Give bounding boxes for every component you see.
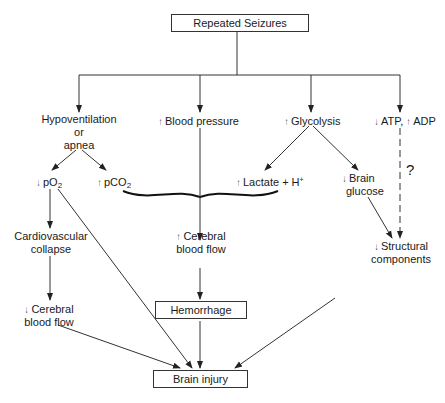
down-arrow-icon: ↓: [375, 115, 379, 128]
glycolysis-label: Glycolysis: [291, 115, 341, 127]
arrow-to-lactate: [265, 126, 309, 170]
brain-glucose-node: ↓Brain glucose: [342, 172, 384, 198]
pco2-label: pCO: [104, 176, 127, 188]
cerebral-down-line1: Cerebral: [31, 303, 73, 315]
lactate-label: Lactate + H: [243, 176, 300, 188]
brain-glucose-line2: glucose: [342, 185, 384, 198]
arrow-to-pco2: [82, 150, 106, 170]
hemorrhage-label: Hemorrhage: [170, 304, 231, 316]
lactate-superscript: +: [300, 176, 304, 183]
question-mark: ?: [406, 161, 414, 178]
cardiovascular-node: Cardiovascular collapse: [10, 230, 92, 256]
hypoventilation-line1: Hypoventilation: [34, 113, 124, 126]
brain-injury-box: Brain injury: [153, 370, 248, 388]
down-arrow-icon: ↓: [25, 303, 29, 316]
cardiovascular-line1: Cardiovascular: [10, 230, 92, 243]
up-arrow-icon: ↑: [159, 115, 163, 128]
arrow-cerebral-down-to-injury: [58, 325, 180, 368]
cerebral-up-line1: Cerebral: [183, 230, 225, 242]
cerebral-blood-flow-up-node: ↑Cerebral blood flow: [170, 230, 232, 256]
blood-pressure-label: Blood pressure: [165, 115, 239, 127]
down-arrow-icon: ↓: [343, 172, 347, 185]
up-arrow-icon: ↑: [285, 115, 289, 128]
structural-components-node: ↓Structural components: [362, 240, 440, 266]
structural-line2: components: [362, 253, 440, 266]
hypoventilation-line3: apnea: [34, 139, 124, 152]
pco2-node: ↑pCO2: [97, 176, 131, 189]
pco2-subscript: 2: [127, 181, 131, 190]
up-arrow-icon: ↑: [98, 176, 102, 189]
arrow-to-po2: [52, 150, 76, 170]
po2-node: ↓pO2: [36, 176, 62, 189]
cerebral-blood-flow-down-node: ↓Cerebral blood flow: [16, 303, 82, 329]
po2-label: pO: [43, 176, 58, 188]
connector-layer: [0, 0, 445, 403]
structural-line1: Structural: [381, 240, 428, 252]
arrow-structural-to-injury: [235, 298, 335, 368]
cerebral-down-line2: blood flow: [16, 316, 82, 329]
cerebral-up-line2: blood flow: [170, 243, 232, 256]
up-arrow-icon: ↑: [237, 176, 241, 189]
blood-pressure-node: ↑Blood pressure: [158, 115, 239, 128]
adp-label: ADP: [413, 115, 436, 127]
hypoventilation-line2: or: [34, 126, 124, 139]
hypoventilation-node: Hypoventilation or apnea: [34, 113, 124, 152]
arrow-glucose-to-structural: [368, 197, 392, 238]
repeated-seizures-box: Repeated Seizures: [171, 14, 309, 32]
atp-adp-node: ↓ATP, ↑ADP: [374, 115, 436, 128]
brain-glucose-line1: Brain: [349, 172, 375, 184]
arrow-to-brain-glucose: [313, 126, 358, 170]
po2-subscript: 2: [58, 181, 62, 190]
down-arrow-icon: ↓: [375, 240, 379, 253]
down-arrow-icon: ↓: [37, 176, 41, 189]
hemorrhage-box: Hemorrhage: [155, 301, 247, 319]
up-arrow-icon: ↑: [177, 230, 181, 243]
atp-label: ATP,: [381, 115, 403, 127]
up-arrow-icon: ↑: [407, 115, 411, 128]
glycolysis-node: ↑Glycolysis: [284, 115, 341, 128]
repeated-seizures-label: Repeated Seizures: [193, 17, 287, 29]
lactate-node: ↑Lactate + H+: [236, 176, 304, 189]
arrow-po2-to-brain-injury: [58, 189, 192, 368]
brain-injury-label: Brain injury: [173, 373, 228, 385]
cardiovascular-line2: collapse: [10, 243, 92, 256]
